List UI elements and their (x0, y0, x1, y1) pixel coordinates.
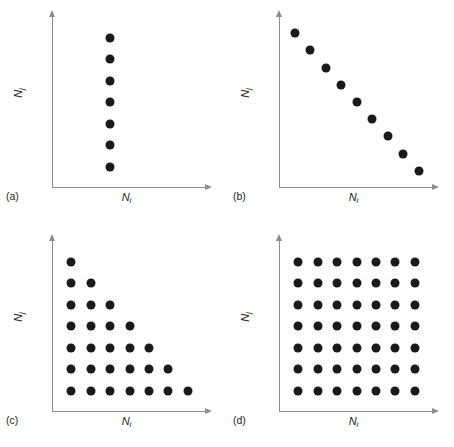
data-point (106, 365, 115, 374)
data-point (371, 343, 380, 352)
data-point (67, 322, 76, 331)
y-axis-line (52, 240, 53, 412)
data-point (352, 365, 361, 374)
panel-a: Nj Ni (a) (0, 0, 227, 212)
data-point (410, 386, 419, 395)
data-point (294, 279, 303, 288)
data-point (67, 300, 76, 309)
data-point (399, 149, 408, 158)
data-point (294, 365, 303, 374)
data-point (183, 386, 192, 395)
y-axis-label: Nj (239, 88, 253, 98)
data-point (352, 257, 361, 266)
data-point (306, 46, 315, 55)
x-axis-line (279, 187, 434, 188)
data-point (164, 386, 173, 395)
data-point (391, 322, 400, 331)
data-point (333, 279, 342, 288)
data-point (371, 257, 380, 266)
y-axis-line (279, 240, 280, 412)
data-point (352, 386, 361, 395)
data-point (383, 132, 392, 141)
x-axis-arrow-icon (205, 408, 212, 414)
data-point (313, 322, 322, 331)
data-point (371, 279, 380, 288)
data-point (333, 300, 342, 309)
panel-label-c: (c) (6, 414, 18, 426)
data-point (391, 365, 400, 374)
x-axis-arrow-icon (432, 184, 439, 190)
data-point (391, 279, 400, 288)
data-point (67, 257, 76, 266)
data-point (67, 386, 76, 395)
data-point (144, 365, 153, 374)
data-point (352, 98, 361, 107)
data-point (410, 257, 419, 266)
plot-area-a (52, 16, 207, 188)
data-point (391, 257, 400, 266)
data-point (86, 386, 95, 395)
data-point (391, 386, 400, 395)
data-point (294, 300, 303, 309)
x-axis-label: Ni (227, 415, 454, 429)
data-point (144, 343, 153, 352)
data-point (106, 386, 115, 395)
x-axis-line (52, 187, 207, 188)
data-point (106, 55, 115, 64)
data-point (313, 300, 322, 309)
data-point (290, 29, 299, 38)
panel-label-b: (b) (233, 190, 246, 202)
data-point (106, 76, 115, 85)
data-point (352, 343, 361, 352)
data-point (294, 343, 303, 352)
y-axis-arrow-icon (276, 234, 282, 241)
data-point (410, 300, 419, 309)
data-point (333, 343, 342, 352)
panel-label-d: (d) (233, 414, 246, 426)
panel-label-a: (a) (6, 190, 19, 202)
data-point (333, 365, 342, 374)
data-point (313, 343, 322, 352)
data-point (86, 365, 95, 374)
plot-area-c (52, 240, 207, 412)
data-point (86, 279, 95, 288)
panel-d: Nj Ni (d) (227, 224, 454, 436)
data-point (391, 343, 400, 352)
y-axis-arrow-icon (276, 10, 282, 17)
data-point (106, 98, 115, 107)
x-axis-label: Ni (0, 191, 227, 205)
data-point (294, 257, 303, 266)
data-point (67, 365, 76, 374)
data-point (333, 257, 342, 266)
data-point (313, 386, 322, 395)
y-axis-label: Nj (12, 312, 26, 322)
y-axis-arrow-icon (49, 10, 55, 17)
y-axis-label: Nj (239, 312, 253, 322)
panel-c: Nj Ni (c) (0, 224, 227, 436)
data-point (144, 386, 153, 395)
data-point (333, 386, 342, 395)
data-point (125, 386, 134, 395)
data-point (313, 279, 322, 288)
data-point (294, 386, 303, 395)
y-axis-label: Nj (12, 88, 26, 98)
figure-four-panel-scatter: Nj Ni (a) Nj Ni (b) Nj Ni (c) (0, 0, 454, 447)
data-point (333, 322, 342, 331)
data-point (410, 279, 419, 288)
data-point (106, 343, 115, 352)
data-point (352, 322, 361, 331)
data-point (67, 279, 76, 288)
x-axis-line (52, 411, 207, 412)
data-point (67, 343, 76, 352)
data-point (106, 300, 115, 309)
data-point (391, 300, 400, 309)
data-point (371, 386, 380, 395)
data-point (410, 343, 419, 352)
data-point (313, 257, 322, 266)
data-point (125, 343, 134, 352)
data-point (106, 162, 115, 171)
data-point (313, 365, 322, 374)
x-axis-arrow-icon (205, 184, 212, 190)
data-point (86, 300, 95, 309)
data-point (371, 365, 380, 374)
